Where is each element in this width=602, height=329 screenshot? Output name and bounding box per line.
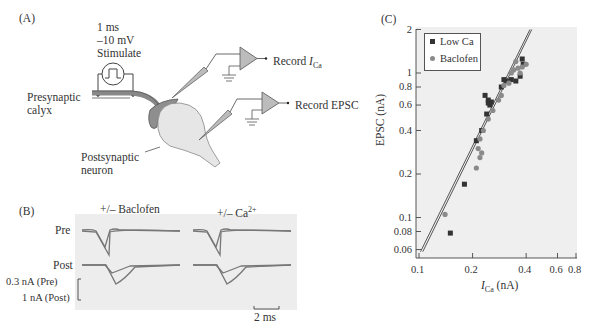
data-point-baclofen [490, 108, 495, 113]
data-point-baclofen [499, 93, 504, 98]
data-point-baclofen [524, 62, 529, 67]
data-point-low-ca [483, 93, 488, 98]
data-point-baclofen [474, 165, 479, 170]
x-axis-title: ICa (nA) [481, 279, 518, 296]
data-point-baclofen [477, 155, 482, 160]
data-point-low-ca [462, 182, 467, 187]
x-tick-label: 0.4 [518, 263, 531, 276]
x-tick-label: 0.8 [568, 263, 581, 276]
y-axis-title: EPSC (nA) [374, 94, 387, 146]
legend-circle-icon [430, 56, 435, 61]
data-point-baclofen [477, 136, 482, 141]
data-point-low-ca [486, 101, 491, 106]
data-point-low-ca [484, 112, 489, 117]
x-tick-label: 0.1 [411, 263, 424, 276]
y-tick-label: 0.06 [394, 243, 412, 256]
data-point-baclofen [506, 81, 511, 86]
y-tick-label: 0.6 [399, 98, 412, 111]
x-tick-label: 0.6 [550, 263, 563, 276]
data-point-baclofen [481, 128, 486, 133]
data-point-baclofen [442, 212, 447, 217]
data-point-low-ca [520, 56, 525, 61]
y-tick-label: 1 [407, 66, 412, 79]
data-point-baclofen [486, 116, 491, 121]
y-tick-label: 0.08 [394, 225, 412, 238]
y-tick-label: 0.1 [399, 211, 412, 224]
y-tick-label: 0.2 [399, 167, 412, 180]
data-point-baclofen [496, 97, 501, 102]
legend-baclofen: Baclofen [440, 52, 478, 65]
legend: Low Ca Baclofen [424, 33, 481, 71]
x-tick-label: 0.2 [465, 263, 478, 276]
data-point-baclofen [479, 150, 484, 155]
y-tick-label: 2 [407, 23, 412, 36]
data-point-baclofen [501, 83, 506, 88]
data-point-low-ca [448, 231, 453, 236]
data-point-baclofen [513, 59, 518, 64]
legend-square-icon [430, 39, 435, 44]
y-tick-label: 0.8 [399, 80, 412, 93]
data-point-low-ca [513, 79, 518, 84]
y-tick-label: 0.4 [399, 124, 412, 137]
data-point-baclofen [476, 146, 481, 151]
data-point-baclofen [518, 70, 523, 75]
legend-low-ca: Low Ca [440, 35, 474, 48]
